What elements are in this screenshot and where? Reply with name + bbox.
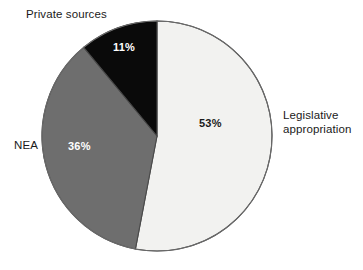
pie-category-label-private-sources: Private sources: [26, 8, 107, 22]
pie-chart: Private sources NEA Legislative appropri…: [0, 0, 363, 270]
pie-slice-value-legislative-appropriation: 53%: [199, 117, 222, 129]
pie-category-label-nea: NEA: [14, 139, 38, 153]
pie-slice-value-private-sources: 11%: [113, 41, 135, 53]
pie-category-label-legislative-appropriation: Legislative appropriation: [283, 109, 351, 136]
pie-slice-value-nea: 36%: [68, 140, 91, 152]
